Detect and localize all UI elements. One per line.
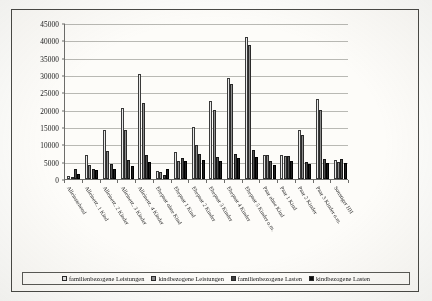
x-tick-mark — [259, 180, 260, 183]
y-tick-label: 45000 — [40, 20, 59, 29]
bar-group — [154, 24, 172, 179]
bar-group — [225, 24, 243, 179]
y-tick-label: 0 — [55, 176, 59, 185]
x-tick-mark — [313, 180, 314, 183]
bar-group — [65, 24, 83, 179]
legend-swatch-icon — [151, 276, 156, 281]
bar-group — [296, 24, 314, 179]
bar-group — [207, 24, 225, 179]
x-axis-label: Paar 1 Kind — [279, 185, 299, 211]
legend-item: familienbezogene Lasten — [231, 275, 302, 282]
bar-group — [101, 24, 119, 179]
bar — [273, 165, 276, 179]
bar-group — [118, 24, 136, 179]
chart-legend: familienbezogene Leistungenkindbezogene … — [22, 272, 410, 285]
legend-swatch-icon — [62, 276, 67, 281]
bar — [255, 157, 258, 179]
bar — [77, 174, 80, 179]
bar-group — [172, 24, 190, 179]
chart-figure: 0500010000150002000025000300003500040000… — [0, 0, 432, 301]
x-tick-mark — [135, 180, 136, 183]
bar — [166, 169, 169, 179]
x-tick-mark — [153, 180, 154, 183]
y-tick-label: 5000 — [44, 158, 59, 167]
y-tick-label: 40000 — [40, 37, 59, 46]
bar-group — [260, 24, 278, 179]
bar — [202, 160, 205, 179]
plot-area: 0500010000150002000025000300003500040000… — [64, 24, 348, 180]
bar-group — [243, 24, 261, 179]
y-tick-label: 10000 — [40, 141, 59, 150]
x-tick-mark — [64, 180, 65, 183]
y-tick-label: 20000 — [40, 106, 59, 115]
y-tick-label: 35000 — [40, 54, 59, 63]
bar — [344, 163, 347, 179]
bar-group — [83, 24, 101, 179]
y-tick-label: 30000 — [40, 72, 59, 81]
legend-swatch-icon — [309, 276, 314, 281]
x-tick-mark — [224, 180, 225, 183]
x-tick-mark — [188, 180, 189, 183]
bar-group — [136, 24, 154, 179]
x-tick-mark — [295, 180, 296, 183]
legend-item: kindbezogene Leistungen — [151, 275, 223, 282]
legend-item: familienbezogene Leistungen — [62, 275, 144, 282]
bar — [237, 158, 240, 179]
x-tick-mark — [348, 180, 349, 183]
bar — [290, 161, 293, 179]
bar — [113, 169, 116, 179]
bar — [148, 162, 151, 179]
bar-group — [314, 24, 332, 179]
bars-layer — [65, 24, 348, 179]
legend-swatch-icon — [231, 276, 236, 281]
legend-label: familienbezogene Lasten — [238, 275, 302, 282]
x-tick-mark — [82, 180, 83, 183]
y-tick-label: 25000 — [40, 89, 59, 98]
x-tick-mark — [277, 180, 278, 183]
legend-label: kindbezogene Leistungen — [158, 275, 223, 282]
legend-item: kindbezogene Lasten — [309, 275, 370, 282]
x-tick-mark — [242, 180, 243, 183]
bar — [184, 161, 187, 179]
bar-group — [331, 24, 349, 179]
bar — [326, 163, 329, 179]
bar — [219, 161, 222, 179]
x-tick-mark — [117, 180, 118, 183]
y-tick-label: 15000 — [40, 124, 59, 133]
bar — [95, 170, 98, 179]
legend-label: kindbezogene Lasten — [316, 275, 370, 282]
x-tick-mark — [100, 180, 101, 183]
bar — [308, 164, 311, 179]
bar — [131, 166, 134, 179]
bar-group — [189, 24, 207, 179]
x-tick-mark — [171, 180, 172, 183]
x-axis-labels: AlleinstehendAlleinerz. 1 KindAlleinerz.… — [64, 182, 348, 258]
legend-label: familienbezogene Leistungen — [69, 275, 144, 282]
x-tick-mark — [330, 180, 331, 183]
bar-group — [278, 24, 296, 179]
x-tick-mark — [206, 180, 207, 183]
